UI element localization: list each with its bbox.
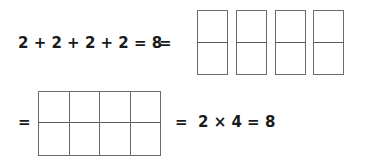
domino-divider-1 xyxy=(197,42,228,43)
equals-sign-top: = xyxy=(159,33,172,53)
grid-col-divider-1 xyxy=(69,91,70,156)
domino-divider-2 xyxy=(236,42,267,43)
multiplication-equation: = 2 × 4 = 8 xyxy=(175,112,275,132)
grid-col-divider-3 xyxy=(130,91,131,156)
domino-divider-3 xyxy=(275,42,306,43)
equals-sign-bottom: = xyxy=(18,112,31,132)
grid-col-divider-2 xyxy=(99,91,100,156)
domino-divider-4 xyxy=(313,42,344,43)
addition-equation: 2 + 2 + 2 + 2 = 8 xyxy=(18,33,162,53)
